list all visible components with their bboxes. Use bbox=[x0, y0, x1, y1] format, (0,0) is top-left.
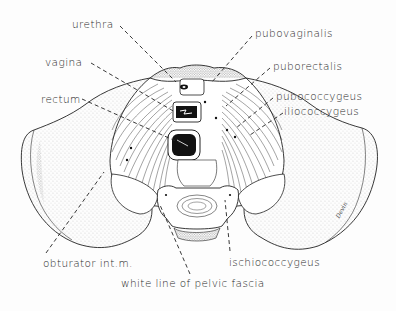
label-pubococcygeus: pubococcygeus bbox=[276, 91, 362, 102]
label-ischiococcygeus: ischiococcygeus bbox=[229, 257, 320, 268]
label-obturator-int: obturator int.m. bbox=[43, 258, 133, 269]
label-rectum: rectum bbox=[41, 94, 81, 105]
label-white-line-pelvic-fascia: white line of pelvic fascia bbox=[121, 278, 265, 289]
rectum-opening bbox=[168, 130, 200, 160]
label-pubovaginalis: pubovaginalis bbox=[255, 28, 333, 39]
pubic-symphysis bbox=[150, 65, 246, 78]
label-urethra: urethra bbox=[72, 19, 114, 30]
vagina-opening bbox=[173, 102, 201, 122]
label-puborectalis: puborectalis bbox=[273, 61, 342, 72]
label-iliococcygeus: iliococcygeus bbox=[284, 106, 359, 117]
label-vagina: vagina bbox=[45, 57, 82, 68]
pelvic-floor-diagram: urethra vagina rectum pubovaginalis pubo… bbox=[0, 0, 396, 311]
anococcygeal-body bbox=[177, 160, 217, 186]
urethra-opening bbox=[180, 79, 204, 95]
